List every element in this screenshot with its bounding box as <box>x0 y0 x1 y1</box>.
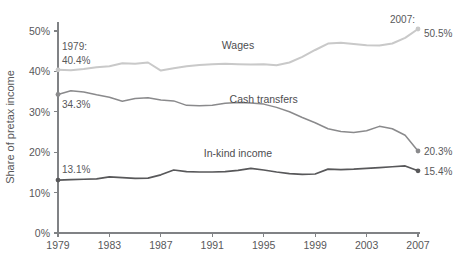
line-chart: 0%10%20%30%40%50% 1979198319871991199519… <box>0 0 456 265</box>
start-year-label: 1979: <box>62 41 87 52</box>
x-tick-label: 1995 <box>252 239 276 251</box>
x-tick-label: 1991 <box>201 239 225 251</box>
x-tick-label: 1987 <box>149 239 173 251</box>
y-tick-label: 50% <box>29 25 50 37</box>
start-cash-value: 34.3% <box>62 99 90 110</box>
y-axis: 0%10%20%30%40%50% <box>29 22 58 239</box>
x-tick-label: 2003 <box>355 239 379 251</box>
y-tick-label: 20% <box>29 146 50 158</box>
series-label-in-kind-income: In-kind income <box>204 147 272 159</box>
end-marker <box>416 27 421 32</box>
start-wages-value: 40.4% <box>62 55 90 66</box>
end-marker <box>416 149 421 154</box>
end-inkind-value: 15.4% <box>424 166 452 177</box>
y-axis-title: Share of pretax income <box>4 70 16 184</box>
series-label-cash-transfers: Cash transfers <box>230 93 298 105</box>
end-cash-value: 20.3% <box>424 146 452 157</box>
series-label-wages: Wages <box>222 39 254 51</box>
y-tick-label: 10% <box>29 187 50 199</box>
end-marker <box>416 168 421 173</box>
y-tick-label: 0% <box>35 227 50 239</box>
end-year-label: 2007: <box>390 14 415 25</box>
series-labels: WagesCash transfersIn-kind income <box>204 39 298 159</box>
y-tick-label: 30% <box>29 106 50 118</box>
x-tick-label: 1979 <box>46 239 70 251</box>
x-axis: 19791983198719911995199920032007 <box>46 233 430 251</box>
x-tick-label: 2007 <box>406 239 430 251</box>
start-marker <box>56 178 61 183</box>
y-tick-label: 40% <box>29 65 50 77</box>
start-marker <box>56 67 61 72</box>
start-inkind-value: 13.1% <box>62 164 90 175</box>
chart-canvas: 0%10%20%30%40%50% 1979198319871991199519… <box>0 0 456 265</box>
x-tick-label: 1999 <box>303 239 327 251</box>
start-marker <box>56 92 61 97</box>
x-tick-label: 1983 <box>98 239 122 251</box>
series-line-in-kind-income <box>58 166 418 180</box>
end-wages-value: 50.5% <box>424 28 452 39</box>
